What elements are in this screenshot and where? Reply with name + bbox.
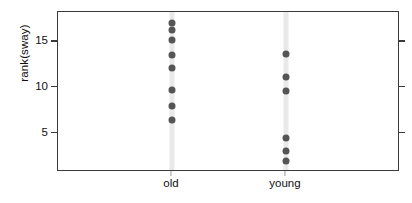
data-point (169, 102, 176, 109)
data-point (169, 20, 176, 27)
data-point (283, 147, 290, 154)
data-point (283, 134, 290, 141)
data-point (169, 27, 176, 34)
data-point (283, 74, 290, 81)
data-point (169, 36, 176, 43)
x-tick-mark (284, 171, 285, 176)
data-point (283, 157, 290, 164)
data-point (169, 87, 176, 94)
data-point (283, 88, 290, 95)
data-point (169, 65, 176, 72)
plot-panel (57, 11, 399, 171)
y-tick-mark-right (399, 132, 405, 133)
y-tick-label: 5 (8, 126, 48, 138)
data-point (169, 116, 176, 123)
y-axis-title: rank(sway) (18, 0, 30, 113)
x-tick-mark (170, 171, 171, 176)
y-tick-mark-right (399, 40, 405, 41)
y-tick-mark-right (399, 86, 405, 87)
x-tick-label-young: young (240, 177, 330, 189)
data-point (169, 52, 176, 59)
y-tick-label: 15 (8, 34, 48, 46)
stripchart-figure: rank(sway) 51015 oldyoung (0, 0, 412, 203)
data-point (283, 51, 290, 58)
y-tick-label: 10 (8, 80, 48, 92)
x-tick-label-old: old (126, 177, 216, 189)
